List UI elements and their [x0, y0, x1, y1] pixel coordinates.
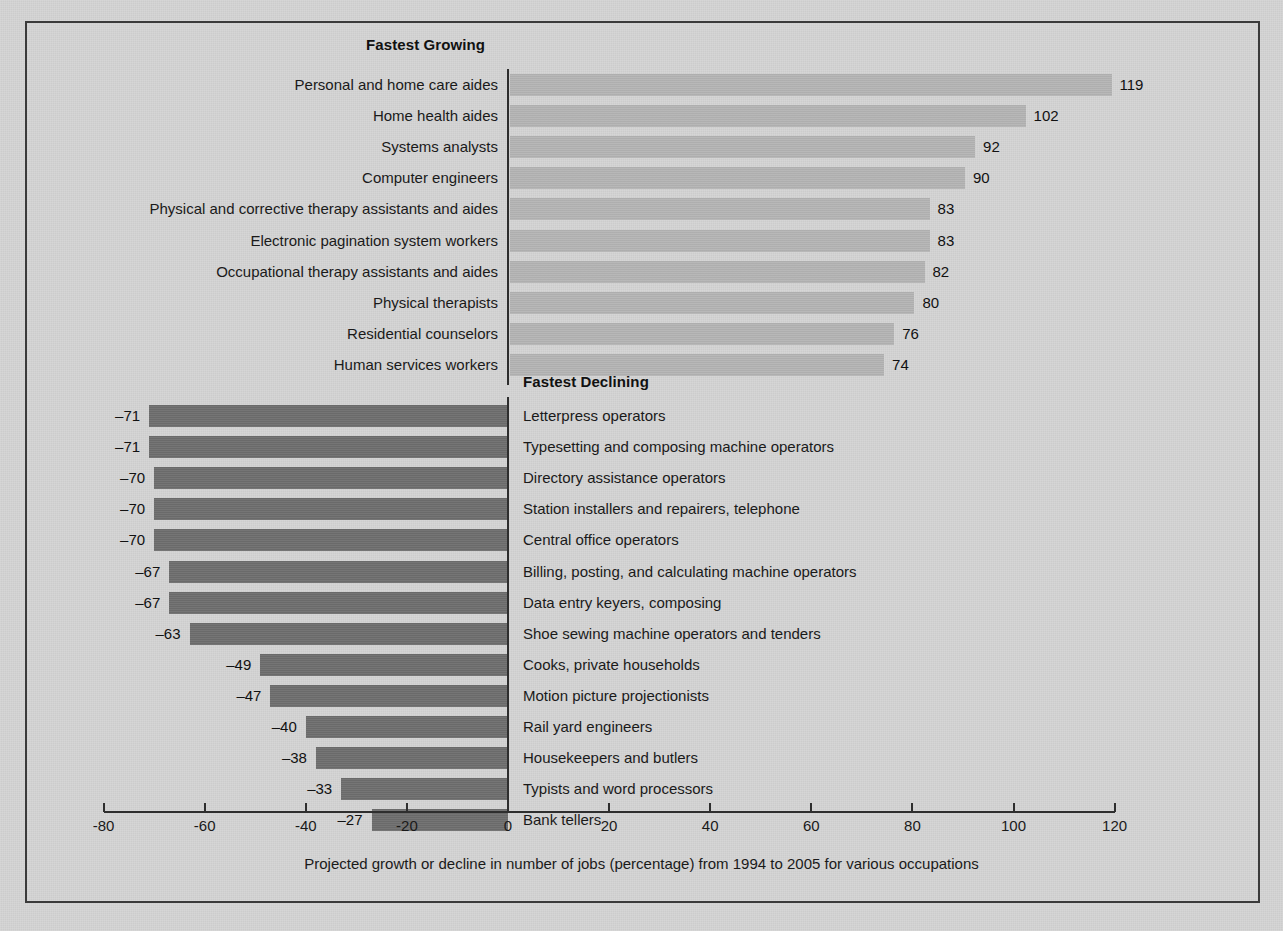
bar-growing	[510, 136, 975, 158]
bar-row: –71Typesetting and composing machine ope…	[0, 436, 1283, 458]
bar-declining	[190, 623, 508, 645]
bar-growing	[510, 74, 1112, 96]
bar-growing	[510, 198, 930, 220]
value-label: –67	[0, 592, 160, 614]
x-axis-tick	[608, 803, 610, 812]
bar-row: –49Cooks, private households	[0, 654, 1283, 676]
x-axis-tick-label: -60	[175, 817, 235, 834]
bar-row: Residential counselors76	[0, 323, 1283, 345]
zero-axis-line-upper	[507, 69, 509, 385]
zero-axis-line-lower	[507, 397, 509, 811]
x-axis-tick	[1114, 803, 1116, 812]
value-label: –67	[0, 561, 160, 583]
value-label: 90	[973, 167, 990, 189]
value-label: –70	[0, 529, 145, 551]
x-axis-tick	[1013, 803, 1015, 812]
value-label: –47	[0, 685, 261, 707]
value-label: –33	[0, 778, 332, 800]
bar-declining	[316, 747, 508, 769]
category-label: Shoe sewing machine operators and tender…	[523, 623, 821, 645]
category-label: Cooks, private households	[523, 654, 700, 676]
value-label: 82	[933, 261, 950, 283]
x-axis-tick-label: 80	[882, 817, 942, 834]
x-axis-tick-label: 60	[781, 817, 841, 834]
category-label: Physical therapists	[30, 292, 498, 314]
section-header-fastest-growing: Fastest Growing	[366, 36, 485, 53]
value-label: 102	[1034, 105, 1059, 127]
x-axis-tick-label: 120	[1085, 817, 1145, 834]
bar-row: –47Motion picture projectionists	[0, 685, 1283, 707]
x-axis-tick	[507, 803, 509, 812]
x-axis-tick-label: -20	[377, 817, 437, 834]
category-label: Physical and corrective therapy assistan…	[30, 198, 498, 220]
category-label: Data entry keyers, composing	[523, 592, 721, 614]
category-label: Typists and word processors	[523, 778, 713, 800]
category-label: Central office operators	[523, 529, 679, 551]
x-axis-tick	[810, 803, 812, 812]
bar-chart-plot: Fastest GrowingPersonal and home care ai…	[0, 0, 1283, 931]
bar-declining	[154, 467, 508, 489]
bar-declining	[169, 592, 508, 614]
category-label: Typesetting and composing machine operat…	[523, 436, 834, 458]
x-axis-tick	[204, 803, 206, 812]
value-label: –38	[0, 747, 307, 769]
bar-row: Electronic pagination system workers83	[0, 230, 1283, 252]
category-label: Housekeepers and butlers	[523, 747, 698, 769]
bar-declining	[149, 436, 508, 458]
x-axis-caption: Projected growth or decline in number of…	[0, 855, 1283, 872]
x-axis-tick	[709, 803, 711, 812]
bar-growing	[510, 261, 925, 283]
bar-row: –40Rail yard engineers	[0, 716, 1283, 738]
category-label: Motion picture projectionists	[523, 685, 709, 707]
section-header-fastest-declining: Fastest Declining	[523, 373, 649, 390]
x-axis-tick-label: 20	[579, 817, 639, 834]
bar-row: –70Central office operators	[0, 529, 1283, 551]
value-label: –49	[0, 654, 251, 676]
value-label: 119	[1120, 74, 1144, 96]
x-axis-tick-label: 100	[984, 817, 1044, 834]
category-label: Personal and home care aides	[30, 74, 498, 96]
bar-declining	[260, 654, 508, 676]
x-axis-tick-label: 0	[478, 817, 538, 834]
bar-row: Systems analysts92	[0, 136, 1283, 158]
value-label: 83	[938, 230, 955, 252]
category-label: Residential counselors	[30, 323, 498, 345]
value-label: 92	[983, 136, 1000, 158]
x-axis-tick	[911, 803, 913, 812]
bar-declining	[154, 529, 508, 551]
value-label: –40	[0, 716, 297, 738]
category-label: Rail yard engineers	[523, 716, 652, 738]
bar-growing	[510, 105, 1026, 127]
value-label: –70	[0, 467, 145, 489]
value-label: –70	[0, 498, 145, 520]
value-label: –63	[0, 623, 181, 645]
x-axis-tick	[103, 803, 105, 812]
bar-declining	[154, 498, 508, 520]
category-label: Human services workers	[30, 354, 498, 376]
bar-row: –33Typists and word processors	[0, 778, 1283, 800]
bar-row: Computer engineers90	[0, 167, 1283, 189]
bar-growing	[510, 323, 894, 345]
bar-row: –38Housekeepers and butlers	[0, 747, 1283, 769]
category-label: Station installers and repairers, teleph…	[523, 498, 800, 520]
bar-row: –67Billing, posting, and calculating mac…	[0, 561, 1283, 583]
bar-row: Home health aides102	[0, 105, 1283, 127]
bar-row: Physical therapists80	[0, 292, 1283, 314]
bar-row: –67Data entry keyers, composing	[0, 592, 1283, 614]
bar-row: Occupational therapy assistants and aide…	[0, 261, 1283, 283]
value-label: 80	[922, 292, 939, 314]
bar-growing	[510, 167, 965, 189]
value-label: 83	[938, 198, 955, 220]
bar-row: –63Shoe sewing machine operators and ten…	[0, 623, 1283, 645]
bar-declining	[270, 685, 508, 707]
category-label: Billing, posting, and calculating machin…	[523, 561, 857, 583]
bar-row: –70Station installers and repairers, tel…	[0, 498, 1283, 520]
bar-declining	[306, 716, 508, 738]
bar-declining	[169, 561, 508, 583]
bar-row: –71Letterpress operators	[0, 405, 1283, 427]
category-label: Letterpress operators	[523, 405, 666, 427]
bar-row: –70Directory assistance operators	[0, 467, 1283, 489]
category-label: Computer engineers	[30, 167, 498, 189]
bar-growing	[510, 230, 930, 252]
category-label: Electronic pagination system workers	[30, 230, 498, 252]
